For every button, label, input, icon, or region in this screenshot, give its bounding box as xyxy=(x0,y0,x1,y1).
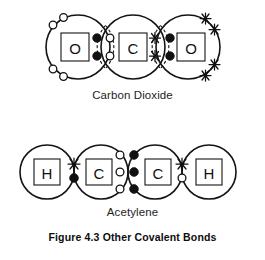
molecule-label-acetylene: Acetylene xyxy=(0,206,265,218)
bond-electron-dot xyxy=(166,34,175,43)
bond-electron-circle xyxy=(106,34,114,42)
bond-electron-circle xyxy=(116,168,124,176)
bond-electron-dot xyxy=(70,174,79,183)
bond-electron-dot xyxy=(93,34,102,43)
figure-caption: Figure 4.3 Other Covalent Bonds xyxy=(0,231,265,243)
symbol-carbon-right: C xyxy=(153,165,164,182)
symbol-carbon-left: C xyxy=(94,165,105,182)
symbol-hydrogen-right: H xyxy=(204,165,215,182)
bond-c-h-right xyxy=(176,158,188,182)
bond-c-o-right xyxy=(150,33,175,62)
bond-electron-dot xyxy=(166,52,175,61)
bond-h-left-c xyxy=(68,158,80,182)
lone-pair-circle xyxy=(60,73,68,81)
bond-electron-circle xyxy=(178,174,186,182)
bond-electron-dot xyxy=(93,52,102,61)
lone-pair-star xyxy=(209,24,220,35)
symbol-hydrogen-left: H xyxy=(42,165,53,182)
bond-electron-circle xyxy=(106,52,114,60)
bond-electron-circle xyxy=(116,185,124,193)
bond-electron-star xyxy=(68,158,80,170)
lewis-structure-diagram: O C O xyxy=(0,0,265,260)
molecule-label-carbon-dioxide: Carbon Dioxide xyxy=(0,89,265,101)
symbol-oxygen-left: O xyxy=(69,40,81,57)
symbol-oxygen-right: O xyxy=(185,40,197,57)
bond-electron-circle xyxy=(116,151,124,159)
bond-electron-star xyxy=(176,158,188,170)
bond-electron-dot xyxy=(130,151,139,160)
bond-electron-dot xyxy=(130,185,139,194)
lone-pair-circle xyxy=(49,21,57,29)
bond-electron-dot xyxy=(130,168,139,177)
lone-pair-circle xyxy=(49,65,57,73)
lone-pair-star xyxy=(209,59,220,70)
covalent-bonds-figure: O C O xyxy=(0,0,265,260)
symbol-carbon-center: C xyxy=(128,40,139,57)
lone-pair-circle xyxy=(60,14,68,22)
molecule-acetylene: H C C H xyxy=(20,145,236,199)
molecule-carbon-dioxide: O C O xyxy=(46,13,220,81)
